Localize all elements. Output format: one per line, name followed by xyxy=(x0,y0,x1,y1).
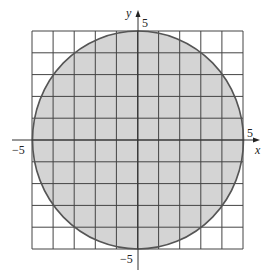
y-axis-label: y xyxy=(125,6,132,20)
x-axis-label: x xyxy=(254,143,261,157)
y-tick-5: 5 xyxy=(142,16,148,30)
x-tick-5: 5 xyxy=(247,126,253,140)
y-axis-arrow-icon xyxy=(136,10,141,17)
circle-grid-diagram: y 5 5 x −5 −5 xyxy=(0,0,268,279)
y-tick-neg5: −5 xyxy=(120,252,133,266)
x-tick-neg5: −5 xyxy=(12,143,25,157)
x-axis-arrow-icon xyxy=(253,138,260,143)
